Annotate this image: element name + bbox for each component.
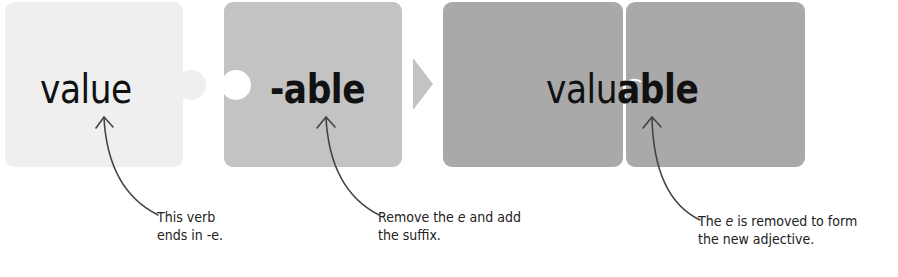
connector-result <box>652 118 700 220</box>
connector-suffix <box>326 118 379 215</box>
annotation-result: The e is removed to form the new adjecti… <box>698 212 857 248</box>
annotation-root: This verb ends in -e. <box>157 208 223 244</box>
connector-root <box>104 118 158 215</box>
annotation-suffix: Remove the e and add the suffix. <box>378 208 521 244</box>
